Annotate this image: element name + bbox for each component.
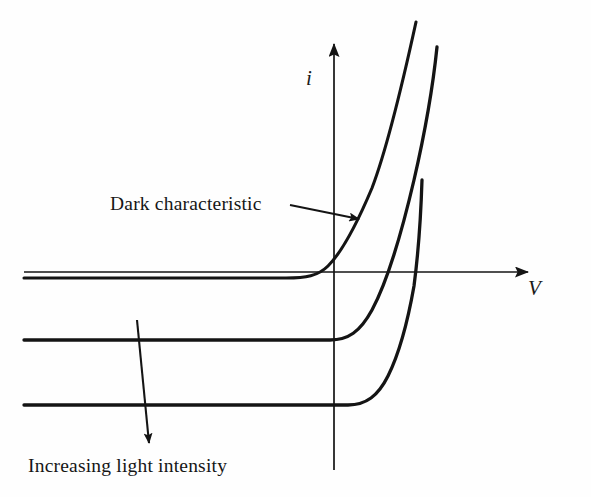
dark-characteristic-label: Dark characteristic [110,193,262,214]
dark-characteristic-arrow [290,205,359,219]
current-axis-label: i [306,68,312,89]
curve-dark-characteristic [24,22,416,278]
voltage-axis-label: V [528,278,541,299]
increasing-light-intensity-label: Increasing light intensity [28,455,227,476]
figure-canvas [0,0,591,497]
photodiode-iv-figure: i V Dark characteristic Increasing light… [0,0,591,497]
annotation-arrows-group [137,205,359,443]
